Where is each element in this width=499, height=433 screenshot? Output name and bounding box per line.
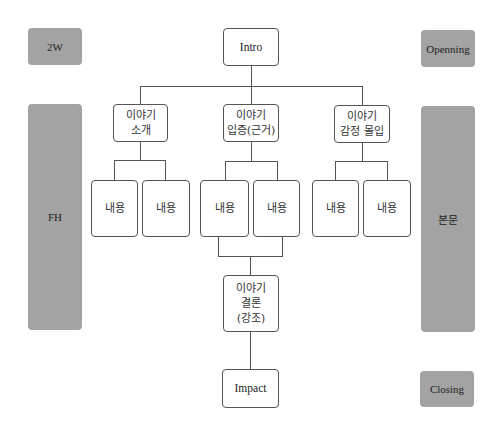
node-label-line1: 이야기 (236, 281, 266, 296)
node-label-line1: 이야기 (126, 108, 156, 123)
connector-branch3-bar (335, 161, 387, 162)
node-label: 내용 (215, 201, 235, 216)
node-story-conclusion: 이야기 결론 (강조) (223, 275, 279, 332)
node-impact: Impact (222, 369, 279, 408)
connector-merge-down (250, 256, 251, 275)
side-label-text: FH (48, 211, 62, 223)
connector-leaf4-up (282, 236, 283, 256)
connector-branch1-in (140, 86, 141, 104)
node-label-line1: 이야기 (236, 108, 266, 123)
connector-leaf3-up (218, 236, 219, 256)
side-label-opening: Openning (421, 30, 475, 67)
connector-branch1-down (140, 141, 141, 161)
node-content: 내용 (363, 180, 411, 237)
node-label-line1: 이야기 (347, 109, 377, 124)
connector-leaf2 (165, 160, 166, 180)
node-intro: Intro (223, 28, 279, 66)
node-label: Intro (240, 40, 262, 55)
node-label-line2: 소개 (131, 123, 151, 138)
side-label-body: 본문 (421, 106, 475, 332)
side-label-closing: Closing (420, 371, 474, 407)
side-label-2w: 2W (28, 28, 82, 65)
connector-branch1-bar (114, 160, 165, 161)
side-label-text: Closing (430, 383, 464, 395)
node-label: 내용 (377, 201, 397, 216)
side-label-text: Openning (426, 43, 469, 55)
side-label-fh: FH (28, 104, 82, 330)
connector-leaf5 (335, 161, 336, 180)
connector-branch2-down (251, 142, 252, 161)
connector-leaf3 (225, 161, 226, 180)
node-story-proof: 이야기 입증(근거) (223, 104, 279, 142)
node-label: 내용 (156, 201, 176, 216)
connector-branch2-in (251, 86, 252, 104)
node-content: 내용 (142, 180, 190, 237)
node-content: 내용 (312, 180, 359, 237)
node-label: 내용 (267, 201, 287, 216)
connector-branch3-in (362, 86, 363, 105)
connector-leaf6 (387, 161, 388, 180)
node-label-line2: 결론 (241, 296, 261, 311)
side-label-text: 본문 (438, 211, 458, 227)
connector-leaf1 (114, 160, 115, 180)
node-content: 내용 (253, 180, 300, 237)
side-label-text: 2W (47, 41, 63, 53)
node-label-line2: 입증(근거) (227, 123, 276, 138)
node-label: Impact (235, 381, 267, 396)
connector-branch3-down (362, 142, 363, 161)
node-label: 내용 (105, 201, 125, 216)
node-content: 내용 (200, 180, 249, 237)
node-content: 내용 (91, 180, 138, 237)
node-story-emotion: 이야기 감정 몰입 (334, 105, 390, 143)
node-label-line2: 감정 몰입 (340, 124, 384, 139)
node-label-line3: (강조) (237, 311, 266, 326)
connector-leaf4 (277, 161, 278, 180)
connector-branch2-bar (225, 161, 277, 162)
node-label: 내용 (326, 201, 346, 216)
node-story-intro: 이야기 소개 (113, 104, 168, 142)
connector-conclusion-down (250, 331, 251, 369)
connector-intro-down (251, 66, 252, 86)
